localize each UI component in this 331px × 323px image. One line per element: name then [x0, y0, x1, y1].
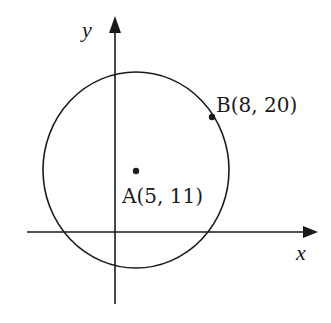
- point-a-dot: [133, 168, 139, 174]
- diagram-canvas: y x B(8, 20) A(5, 11): [0, 0, 331, 323]
- coordinate-diagram: y x B(8, 20) A(5, 11): [0, 0, 331, 323]
- y-axis-arrow-icon: [109, 16, 121, 33]
- x-axis-arrow-icon: [303, 226, 318, 238]
- point-b-dot: [209, 114, 215, 120]
- x-axis-label: x: [295, 240, 306, 265]
- point-b-label: B(8, 20): [216, 93, 297, 117]
- point-a-label: A(5, 11): [121, 184, 203, 208]
- y-axis-label: y: [80, 17, 92, 42]
